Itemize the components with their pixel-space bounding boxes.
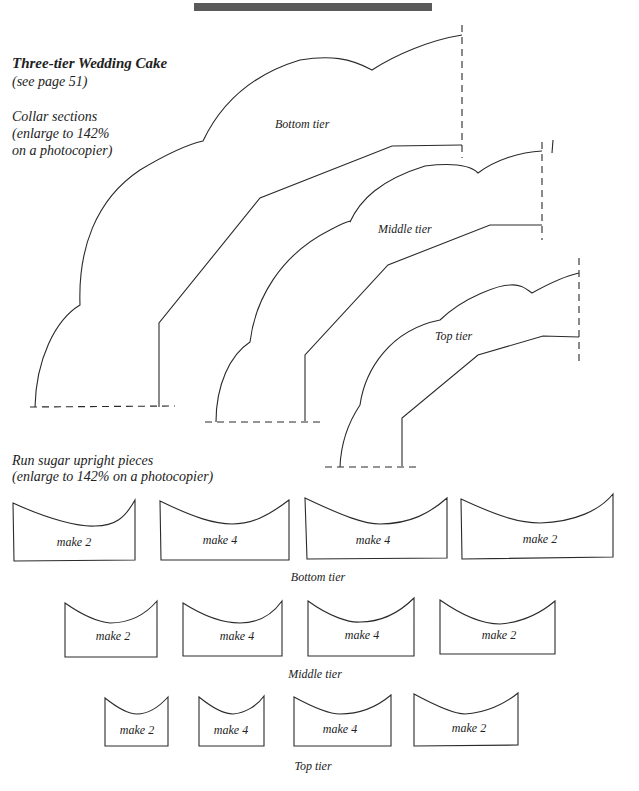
bottom-tier-upright-pieces <box>13 494 613 561</box>
upright-piece-label: make 2 <box>120 723 154 738</box>
upright-piece-label: make 2 <box>57 535 91 550</box>
upright-piece-label: make 2 <box>523 532 557 547</box>
collar-label-middle-tier: Middle tier <box>378 222 432 237</box>
upright-piece-label: make 4 <box>203 533 237 548</box>
uprights-caption-middle-tier: Middle tier <box>288 667 342 682</box>
bottom-tier-collar-outline <box>30 25 462 407</box>
upright-piece-label: make 2 <box>96 629 130 644</box>
collar-label-top-tier: Top tier <box>435 329 472 344</box>
upright-piece-label: make 4 <box>356 533 390 548</box>
upright-piece-label: make 4 <box>323 722 357 737</box>
top-tier-upright-pieces <box>105 693 518 746</box>
upright-piece-label: make 4 <box>220 629 254 644</box>
top-tier-collar-outline <box>325 258 579 467</box>
upright-piece-label: make 2 <box>452 721 486 736</box>
uprights-heading: Run sugar upright pieces <box>12 452 153 469</box>
upright-piece-label: make 4 <box>214 723 248 738</box>
uprights-caption-top-tier: Top tier <box>294 759 331 774</box>
upright-piece-label: make 2 <box>482 628 516 643</box>
collar-label-bottom-tier: Bottom tier <box>275 117 329 132</box>
middle-tier-collar-outline <box>205 140 553 422</box>
uprights-caption-bottom-tier: Bottom tier <box>291 570 345 585</box>
uprights-enlarge-note: (enlarge to 142% on a photocopier) <box>12 468 213 485</box>
upright-piece-label: make 4 <box>345 628 379 643</box>
